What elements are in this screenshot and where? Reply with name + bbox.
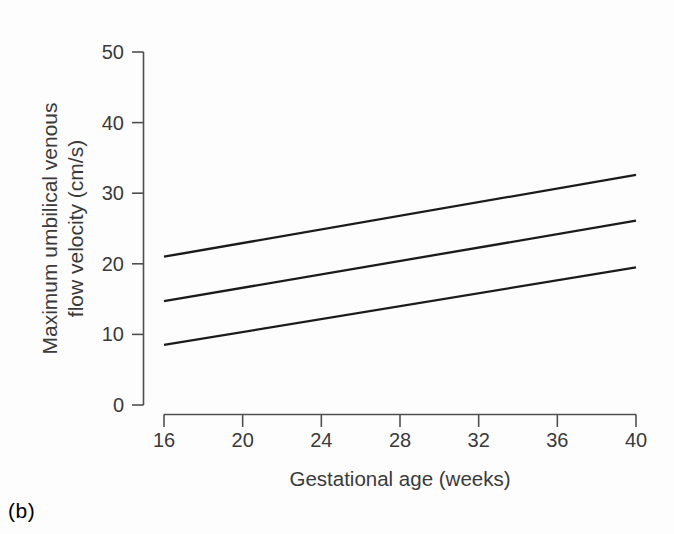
x-tick-label: 40 xyxy=(625,429,647,451)
y-tick-label: 10 xyxy=(102,323,124,345)
series-line-median xyxy=(164,221,636,301)
y-tick-label: 50 xyxy=(102,41,124,63)
figure-page: 0102030405016202428323640Gestational age… xyxy=(0,0,674,534)
y-axis-title-line2: flow velocity (cm/s) xyxy=(64,140,87,317)
y-tick-label: 20 xyxy=(102,253,124,275)
y-tick-label: 0 xyxy=(113,394,124,416)
y-axis-title-line1: Maximum umbilical venous xyxy=(38,102,61,354)
x-tick-label: 28 xyxy=(389,429,411,451)
x-tick-label: 36 xyxy=(546,429,568,451)
x-tick-label: 16 xyxy=(153,429,175,451)
y-tick-label: 40 xyxy=(102,112,124,134)
x-tick-label: 32 xyxy=(468,429,490,451)
x-axis-title: Gestational age (weeks) xyxy=(289,467,510,490)
umbilical-venous-velocity-chart: 0102030405016202428323640Gestational age… xyxy=(0,0,674,534)
figure-panel-label: (b) xyxy=(8,499,35,523)
series-line-lower-reference-limit xyxy=(164,267,636,345)
y-tick-label: 30 xyxy=(102,182,124,204)
series-line-upper-reference-limit xyxy=(164,175,636,257)
x-tick-label: 24 xyxy=(310,429,332,451)
x-tick-label: 20 xyxy=(232,429,254,451)
